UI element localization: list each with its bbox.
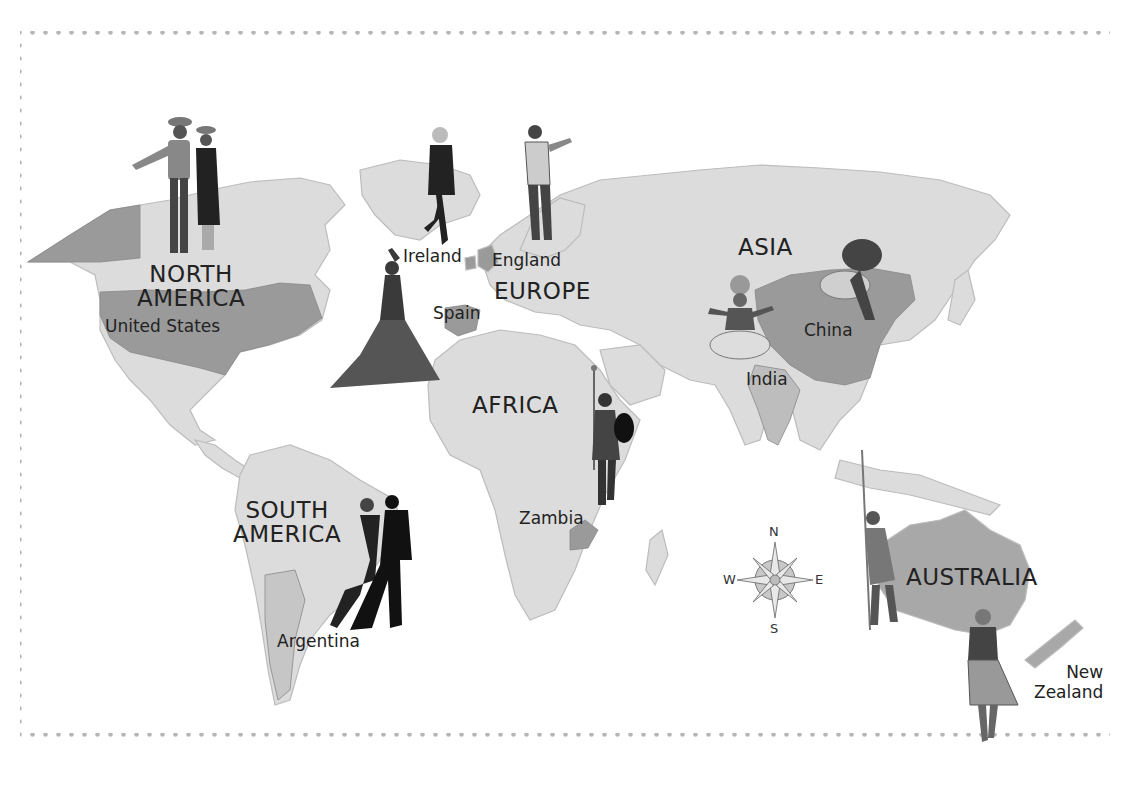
ireland-landmass	[465, 256, 476, 270]
indonesia-landmass	[835, 460, 1000, 515]
compass-north-label: N	[769, 524, 779, 539]
label-africa: AFRICA	[472, 393, 559, 417]
label-zambia: Zambia	[519, 510, 584, 527]
label-ireland: Ireland	[403, 248, 462, 265]
label-england: England	[492, 252, 561, 269]
madagascar-landmass	[646, 530, 668, 585]
label-india: India	[746, 371, 788, 388]
irish-dancer-figure	[424, 127, 455, 245]
label-europe: EUROPE	[494, 279, 591, 303]
label-south-america-line1: SOUTH	[233, 498, 341, 522]
label-china: China	[804, 322, 853, 339]
maori-dancer-figure	[968, 609, 1018, 742]
compass-south-label: S	[770, 621, 778, 636]
label-new-zealand-line2: Zealand	[1034, 682, 1103, 702]
label-asia: ASIA	[738, 235, 793, 259]
label-australia: AUSTRALIA	[906, 565, 1038, 589]
label-north-america: NORTH AMERICA	[137, 262, 245, 310]
label-south-america-line2: AMERICA	[233, 522, 341, 546]
label-spain: Spain	[433, 305, 481, 322]
flamenco-dancer-figure	[330, 248, 440, 388]
label-united-states: United States	[105, 318, 220, 335]
alaska-highlight	[28, 205, 140, 262]
compass-rose-icon	[737, 542, 813, 618]
new-zealand-landmass	[1025, 620, 1083, 668]
world-map-graphic	[0, 0, 1134, 785]
compass-east-label: E	[815, 572, 823, 587]
greenland-landmass	[360, 160, 480, 240]
label-south-america: SOUTH AMERICA	[233, 498, 341, 546]
label-new-zealand-line1: New	[1034, 662, 1103, 682]
label-argentina: Argentina	[277, 633, 360, 650]
label-new-zealand: New Zealand	[1034, 662, 1103, 702]
label-north-america-line1: NORTH	[137, 262, 245, 286]
label-north-america-line2: AMERICA	[137, 286, 245, 310]
compass-west-label: W	[723, 572, 736, 587]
